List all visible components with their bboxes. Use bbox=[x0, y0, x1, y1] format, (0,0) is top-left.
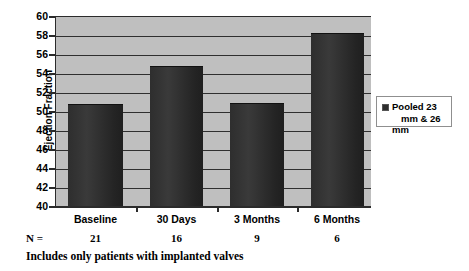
plot-inner bbox=[56, 17, 371, 207]
y-tick-label-44: 44 bbox=[14, 163, 48, 173]
x-label-30-days: 30 Days bbox=[136, 213, 217, 225]
y-tick-label-50: 50 bbox=[14, 106, 48, 116]
footnote-text: Includes only patients with implanted va… bbox=[26, 250, 244, 262]
x-tick-mark-3 bbox=[297, 206, 299, 212]
bar-3-months[interactable] bbox=[230, 103, 284, 208]
bar-baseline[interactable] bbox=[68, 104, 123, 207]
legend-entry-label: Pooled 23 mm & 26 mm bbox=[392, 101, 450, 136]
bar-6-months[interactable] bbox=[311, 33, 364, 207]
x-label-6-months: 6 Months bbox=[297, 213, 377, 225]
y-tick-label-48: 48 bbox=[14, 125, 48, 135]
legend-entry-line2: mm & 26 mm bbox=[392, 113, 450, 136]
ejection-fraction-bar-chart: Ejection Fraction 60 58 56 54 52 50 48 4… bbox=[0, 0, 469, 271]
y-tick-label-52: 52 bbox=[14, 87, 48, 97]
x-tick-mark-1 bbox=[136, 206, 138, 212]
x-label-baseline: Baseline bbox=[55, 213, 136, 225]
n-label: N = bbox=[26, 232, 43, 244]
n-value-3-months: 9 bbox=[217, 232, 297, 244]
bar-30-days[interactable] bbox=[150, 66, 203, 208]
x-label-3-months: 3 Months bbox=[217, 213, 297, 225]
y-tick-label-60: 60 bbox=[14, 11, 48, 21]
x-axis-line bbox=[54, 206, 371, 208]
plot-area bbox=[55, 16, 371, 207]
chart-legend: Pooled 23 mm & 26 mm bbox=[376, 96, 452, 127]
x-tick-mark-2 bbox=[217, 206, 219, 212]
y-tick-label-42: 42 bbox=[14, 182, 48, 192]
y-tick-label-54: 54 bbox=[14, 68, 48, 78]
n-value-baseline: 21 bbox=[55, 232, 136, 244]
legend-entry-line1: Pooled 23 bbox=[392, 101, 437, 112]
legend-swatch-icon bbox=[382, 104, 389, 111]
n-value-6-months: 6 bbox=[297, 232, 377, 244]
y-tick-label-46: 46 bbox=[14, 144, 48, 154]
y-tick-label-56: 56 bbox=[14, 49, 48, 59]
y-tick-label-40: 40 bbox=[14, 201, 48, 211]
n-value-30-days: 16 bbox=[136, 232, 217, 244]
y-tick-label-58: 58 bbox=[14, 30, 48, 40]
